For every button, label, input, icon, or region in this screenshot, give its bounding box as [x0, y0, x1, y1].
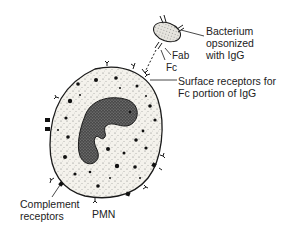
- complement-label-line2: receptors: [20, 210, 80, 222]
- complement-receptors-label: Complement receptors: [20, 198, 80, 222]
- bacterium-label-line3: with IgG: [206, 49, 254, 61]
- bacterium-label-line2: opsonized: [206, 37, 254, 49]
- bacterium: [142, 15, 184, 73]
- bacterium-label-line1: Bacterium: [206, 25, 254, 37]
- bacterium-label: Bacterium opsonized with IgG: [206, 25, 254, 61]
- fab-label: Fab: [172, 50, 189, 62]
- pmn-cell: [45, 61, 165, 203]
- surface-receptors-label: Surface receptors for Fc portion of IgG: [178, 75, 276, 99]
- cell-membrane: [50, 67, 162, 198]
- dotted-arrow: [145, 50, 156, 72]
- surface-label-line1: Surface receptors for: [178, 75, 276, 87]
- fc-label: Fc: [166, 62, 177, 74]
- surface-label-line2: Fc portion of IgG: [178, 87, 276, 99]
- pmn-label: PMN: [92, 208, 115, 220]
- complement-label-line1: Complement: [20, 198, 80, 210]
